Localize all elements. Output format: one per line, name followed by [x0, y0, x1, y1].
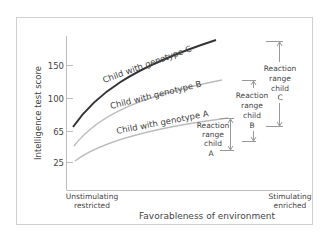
svg-text:B: B [249, 121, 254, 130]
svg-text:Reaction: Reaction [197, 121, 230, 130]
y-tick-label: 100 [48, 94, 64, 104]
svg-text:range: range [269, 74, 291, 83]
x-right-label-line2: enriched [274, 201, 307, 210]
y-tick-label: 25 [53, 158, 64, 168]
svg-text:range: range [202, 130, 224, 139]
svg-text:child: child [243, 111, 261, 120]
x-right-label-line1: Stimulating [268, 192, 311, 201]
svg-text:child: child [204, 139, 222, 148]
x-axis-label: Favorableness of environment [139, 211, 275, 221]
svg-text:range: range [241, 101, 263, 110]
svg-text:C: C [277, 93, 282, 102]
y-axis-label: Intelligence test score [33, 66, 43, 160]
x-left-label-line1: Unstimulating [66, 192, 119, 201]
svg-text:Reaction: Reaction [264, 64, 297, 73]
y-tick-label: 150 [48, 61, 64, 71]
y-tick-label: 65 [53, 127, 64, 137]
svg-text:A: A [208, 149, 214, 158]
reaction-range-diagram: 150 100 65 25 Intelligence test score Ch… [0, 0, 328, 236]
svg-text:child: child [271, 84, 289, 93]
x-left-label-line2: restricted [74, 201, 110, 210]
svg-text:Reaction: Reaction [236, 91, 269, 100]
